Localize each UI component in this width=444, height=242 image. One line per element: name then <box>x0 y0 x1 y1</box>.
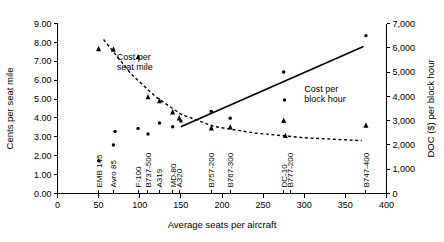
data-point-seat-mile <box>145 94 150 99</box>
data-point-block-hour <box>171 125 174 128</box>
y-axis-left-tick-label: 6.00 <box>34 75 52 85</box>
x-axis-tick-label: 0 <box>55 200 60 210</box>
aircraft-label: EMB 145 <box>95 154 104 187</box>
series-annotation-line1-1: Cost per <box>304 84 338 94</box>
x-axis-tick-label: 300 <box>297 200 312 210</box>
y-axis-left-tick-label: 3.00 <box>34 132 52 142</box>
aircraft-label: A320 <box>175 168 184 187</box>
y-axis-right-tick-label: 3,000 <box>393 116 416 126</box>
y-axis-left-tick-label: 0.00 <box>34 189 52 199</box>
data-point-seat-mile <box>228 124 233 129</box>
data-point-block-hour <box>229 117 232 120</box>
y-axis-left-tick-label: 7.00 <box>34 56 52 66</box>
data-point-block-hour <box>97 159 100 162</box>
y-axis-right-tick-label: 1,000 <box>393 164 416 174</box>
data-point-block-hour <box>136 127 139 130</box>
scatter-chart: 0.001.002.003.004.005.006.007.008.009.00… <box>0 0 444 242</box>
data-point-seat-mile <box>363 122 368 127</box>
aircraft-label: A319 <box>155 168 164 187</box>
aircraft-label: Avro 85 <box>109 160 118 188</box>
series-annotation-line2-0: seat mile <box>117 62 153 72</box>
data-point-block-hour <box>364 34 367 37</box>
chart-container: 0.001.002.003.004.005.006.007.008.009.00… <box>0 0 444 242</box>
series-annotation-line1-0: Cost per <box>117 52 151 62</box>
data-point-block-hour <box>210 110 213 113</box>
aircraft-label: B747-400 <box>362 152 371 187</box>
data-point-block-hour <box>158 121 161 124</box>
x-axis-title: Average seats per aircraft <box>168 219 277 230</box>
x-axis-tick-label: 200 <box>214 200 229 210</box>
data-point-seat-mile <box>170 109 175 114</box>
x-axis-tick-label: 400 <box>379 200 394 210</box>
x-axis-tick-label: 250 <box>256 200 271 210</box>
aircraft-label: B737-500 <box>144 152 153 187</box>
aircraft-label: B767-300 <box>226 152 235 187</box>
y-axis-right-tick-label: 0 <box>393 189 398 199</box>
aircraft-label: B777-200 <box>286 152 295 187</box>
x-axis-tick-label: 150 <box>173 200 188 210</box>
y-axis-right-tick-label: 7,000 <box>393 19 416 29</box>
y-axis-left-tick-label: 1.00 <box>34 170 52 180</box>
y-axis-right-tick-label: 4,000 <box>393 92 416 102</box>
x-axis-tick-label: 350 <box>338 200 353 210</box>
y-axis-left-tick-label: 5.00 <box>34 94 52 104</box>
data-point-seat-mile <box>96 46 101 51</box>
data-point-block-hour <box>283 98 286 101</box>
y-axis-right-tick-label: 5,000 <box>393 67 416 77</box>
y-axis-left-tick-label: 9.00 <box>34 19 52 29</box>
data-point-block-hour <box>112 143 115 146</box>
aircraft-label: F-100 <box>134 166 143 187</box>
y-axis-right-title: DOC ($) per block hour <box>425 59 436 157</box>
y-axis-left-tick-label: 2.00 <box>34 151 52 161</box>
data-point-block-hour <box>179 119 182 122</box>
y-axis-right-tick-label: 6,000 <box>393 43 416 53</box>
series-annotation-line2-1: block hour <box>304 94 346 104</box>
x-axis-tick-label: 50 <box>94 200 104 210</box>
y-axis-left-tick-label: 4.00 <box>34 113 52 123</box>
data-point-block-hour <box>282 70 285 73</box>
y-axis-right-tick-label: 2,000 <box>393 140 416 150</box>
data-point-block-hour <box>113 130 116 133</box>
data-point-seat-mile <box>281 118 286 123</box>
y-axis-left-title: Cents per seat mile <box>4 68 15 150</box>
data-point-block-hour <box>146 132 149 135</box>
x-axis-tick-label: 100 <box>132 200 147 210</box>
aircraft-label: B757-200 <box>207 152 216 187</box>
y-axis-left-tick-label: 8.00 <box>34 38 52 48</box>
